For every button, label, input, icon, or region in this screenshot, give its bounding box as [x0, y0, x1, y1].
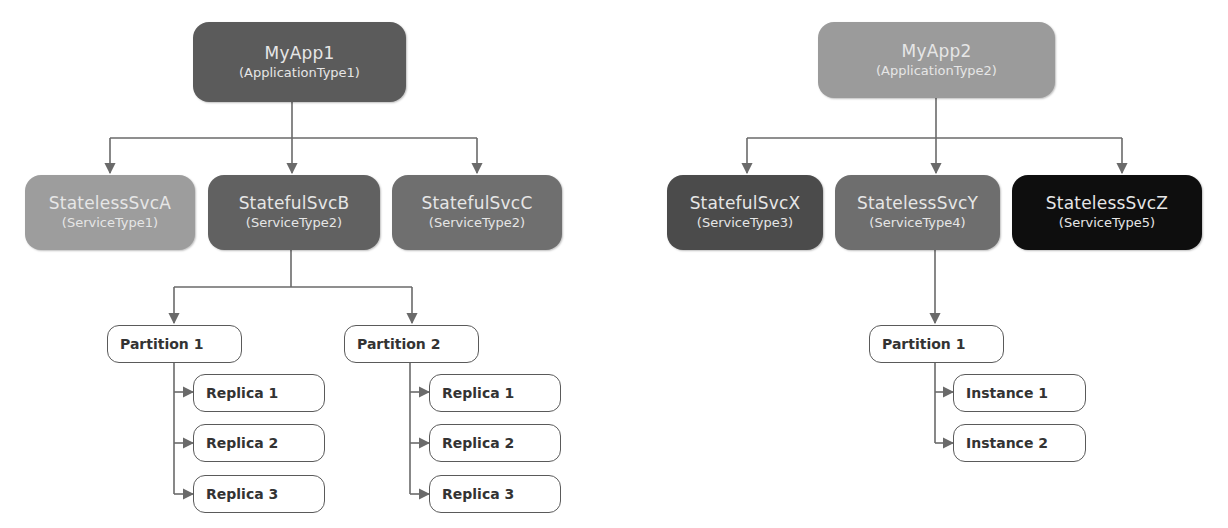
- app-type: (ApplicationType1): [239, 64, 360, 82]
- partition-label: Partition 1: [882, 336, 965, 352]
- app-node-myapp2: MyApp2 (ApplicationType2): [818, 22, 1055, 98]
- replica-label: Replica 3: [442, 486, 514, 502]
- app-node-myapp1: MyApp1 (ApplicationType1): [193, 22, 406, 102]
- service-type: (ServiceType2): [246, 214, 342, 232]
- service-node-statefulsvcb: StatefulSvcB (ServiceType2): [208, 175, 380, 250]
- replica-node: Replica 2: [193, 424, 325, 462]
- replica-label: Replica 3: [206, 486, 278, 502]
- service-type: (ServiceType4): [869, 214, 965, 232]
- replica-label: Replica 2: [206, 435, 278, 451]
- replica-label: Replica 2: [442, 435, 514, 451]
- service-name: StatefulSvcX: [690, 193, 801, 214]
- partition-node: Partition 1: [869, 325, 1004, 363]
- instance-node: Instance 2: [953, 424, 1086, 462]
- service-type: (ServiceType2): [429, 214, 525, 232]
- service-node-statefulsvcc: StatefulSvcC (ServiceType2): [392, 175, 562, 250]
- service-node-statefulsvcx: StatefulSvcX (ServiceType3): [667, 175, 823, 250]
- service-type: (ServiceType3): [697, 214, 793, 232]
- replica-node: Replica 3: [429, 475, 561, 513]
- partition-node: Partition 1: [107, 325, 242, 363]
- service-name: StatefulSvcC: [422, 193, 533, 214]
- replica-node: Replica 2: [429, 424, 561, 462]
- app-name: MyApp1: [265, 43, 335, 64]
- service-type: (ServiceType1): [62, 214, 158, 232]
- partition-label: Partition 2: [357, 336, 440, 352]
- instance-label: Instance 1: [966, 385, 1048, 401]
- app-type: (ApplicationType2): [876, 62, 997, 80]
- service-name: StatefulSvcB: [239, 193, 350, 214]
- instance-label: Instance 2: [966, 435, 1048, 451]
- replica-node: Replica 1: [429, 374, 561, 412]
- service-name: StatelessSvcY: [857, 193, 978, 214]
- service-type: (ServiceType5): [1059, 214, 1155, 232]
- instance-node: Instance 1: [953, 374, 1086, 412]
- partition-node: Partition 2: [344, 325, 479, 363]
- service-node-statelesssvcz: StatelessSvcZ (ServiceType5): [1012, 175, 1202, 250]
- service-node-statelesssvcy: StatelessSvcY (ServiceType4): [835, 175, 1000, 250]
- replica-node: Replica 3: [193, 475, 325, 513]
- service-node-statelesssvca: StatelessSvcA (ServiceType1): [25, 175, 195, 250]
- replica-node: Replica 1: [193, 374, 325, 412]
- service-name: StatelessSvcZ: [1046, 193, 1168, 214]
- replica-label: Replica 1: [442, 385, 514, 401]
- partition-label: Partition 1: [120, 336, 203, 352]
- service-name: StatelessSvcA: [49, 193, 171, 214]
- app-name: MyApp2: [902, 41, 972, 62]
- replica-label: Replica 1: [206, 385, 278, 401]
